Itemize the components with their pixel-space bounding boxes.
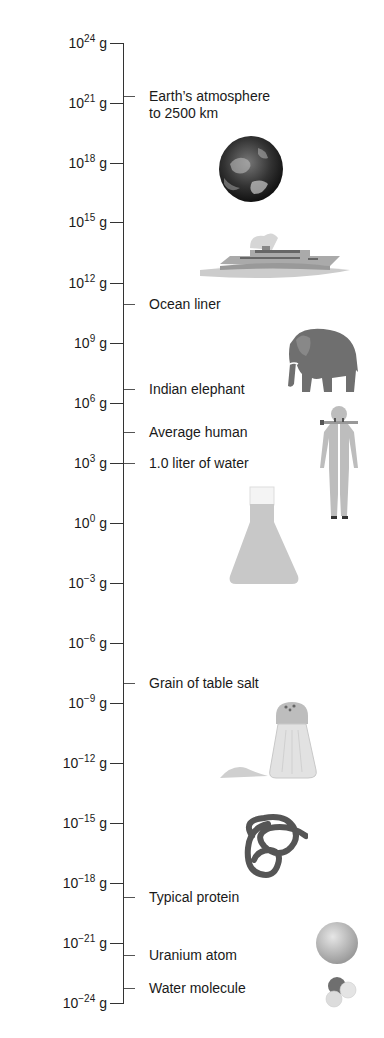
scale-tick	[110, 523, 124, 524]
scale-base: 10	[68, 695, 84, 711]
scale-exponent: −12	[78, 753, 95, 764]
scale-exponent: −18	[78, 873, 95, 884]
object-marker	[124, 96, 135, 97]
scale-label: 10−9g	[68, 695, 107, 713]
scale-unit: g	[99, 935, 107, 951]
salt-shaker-icon	[220, 700, 320, 782]
scale-base: 10	[68, 635, 84, 651]
elephant-icon	[284, 326, 362, 396]
scale-unit: g	[99, 395, 107, 411]
scale-exponent: 15	[84, 212, 95, 223]
object-label-line: Indian elephant	[149, 381, 245, 398]
scale-base: 10	[74, 515, 90, 531]
object-label-line: to 2500 km	[149, 105, 270, 122]
scale-label: 10−3g	[68, 575, 107, 593]
scale-unit: g	[99, 755, 107, 771]
scale-unit: g	[99, 515, 107, 531]
scale-unit: g	[99, 995, 107, 1011]
scale-unit: g	[99, 575, 107, 591]
scale-base: 10	[68, 575, 84, 591]
scale-label: 1021g	[69, 95, 108, 113]
scale-label: 10−6g	[68, 635, 107, 653]
scale-label: 1015g	[69, 214, 108, 232]
object-marker	[124, 304, 135, 305]
scale-exponent: 6	[90, 393, 96, 404]
scale-label: 10−12g	[63, 755, 107, 773]
scale-tick	[110, 703, 124, 704]
object-marker	[124, 463, 135, 464]
scale-exponent: 3	[90, 453, 96, 464]
ship-icon	[200, 228, 350, 283]
scale-tick	[110, 343, 124, 344]
scale-tick	[110, 163, 124, 164]
human-icon	[316, 402, 362, 524]
scale-label: 10−21g	[63, 935, 107, 953]
scale-exponent: −3	[84, 573, 95, 584]
scale-label: 109g	[74, 335, 107, 353]
water-molecule-icon	[324, 976, 358, 1010]
scale-exponent: 18	[84, 153, 95, 164]
object-label: Uranium atom	[149, 947, 237, 964]
scale-exponent: −21	[78, 933, 95, 944]
scale-tick	[110, 1003, 124, 1004]
object-marker	[124, 955, 135, 956]
scale-label: 106g	[74, 395, 107, 413]
scale-tick	[110, 283, 124, 284]
object-marker	[124, 432, 135, 433]
scale-unit: g	[99, 335, 107, 351]
scale-label: 1024g	[69, 35, 108, 53]
scale-base: 10	[63, 995, 79, 1011]
object-label: Ocean liner	[149, 296, 221, 313]
object-label-line: Water molecule	[149, 980, 246, 997]
earth-icon	[218, 134, 284, 204]
atom-icon	[314, 920, 360, 966]
scale-unit: g	[99, 35, 107, 51]
protein-icon	[232, 814, 308, 884]
scale-unit: g	[99, 155, 107, 171]
scale-exponent: −6	[84, 633, 95, 644]
scale-tick	[110, 883, 124, 884]
scale-unit: g	[99, 635, 107, 651]
scale-unit: g	[99, 875, 107, 891]
scale-tick	[110, 43, 124, 44]
scale-unit: g	[99, 815, 107, 831]
scale-label: 1018g	[69, 155, 108, 173]
scale-base: 10	[69, 275, 85, 291]
scale-unit: g	[99, 455, 107, 471]
scale-exponent: 0	[90, 513, 96, 524]
object-label-line: Uranium atom	[149, 947, 237, 964]
scale-base: 10	[63, 935, 79, 951]
scale-base: 10	[69, 214, 85, 230]
object-marker	[124, 897, 135, 898]
scale-label: 1012g	[69, 275, 108, 293]
scale-base: 10	[69, 155, 85, 171]
object-label: Typical protein	[149, 889, 239, 906]
object-marker	[124, 389, 135, 390]
scale-unit: g	[99, 275, 107, 291]
scale-base: 10	[69, 95, 85, 111]
scale-base: 10	[69, 35, 85, 51]
scale-unit: g	[99, 95, 107, 111]
scale-tick	[110, 943, 124, 944]
scale-exponent: 12	[84, 273, 95, 284]
scale-tick	[110, 823, 124, 824]
object-label-line: Earth’s atmosphere	[149, 88, 270, 105]
scale-base: 10	[63, 815, 79, 831]
object-label: 1.0 liter of water	[149, 455, 249, 472]
scale-label: 10−15g	[63, 815, 107, 833]
scale-tick	[110, 103, 124, 104]
scale-label: 10−24g	[63, 995, 107, 1013]
scale-exponent: −15	[78, 813, 95, 824]
scale-base: 10	[63, 875, 79, 891]
flask-icon	[228, 486, 300, 586]
scale-base: 10	[63, 755, 79, 771]
scale-exponent: 24	[84, 33, 95, 44]
scale-label: 100g	[74, 515, 107, 533]
scale-unit: g	[99, 695, 107, 711]
object-marker	[124, 988, 135, 989]
object-label-line: Ocean liner	[149, 296, 221, 313]
object-marker	[124, 683, 135, 684]
scale-unit: g	[99, 214, 107, 230]
object-label-line: Average human	[149, 424, 248, 441]
object-label-line: Typical protein	[149, 889, 239, 906]
